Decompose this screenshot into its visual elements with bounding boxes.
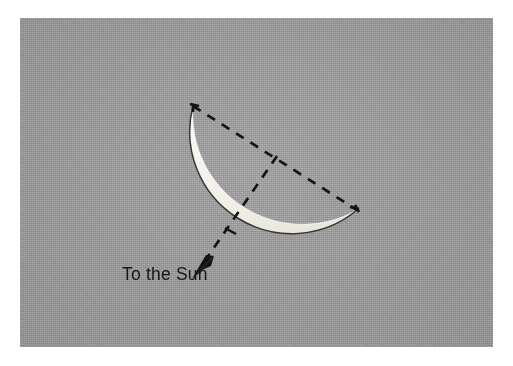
lit-crescent (190, 106, 357, 234)
sun-direction-caption: To the Sun (122, 264, 208, 285)
moon-sun-diagram (0, 0, 513, 366)
moon-disc-arc (190, 106, 357, 234)
figure-page: To the Sun (0, 0, 513, 366)
